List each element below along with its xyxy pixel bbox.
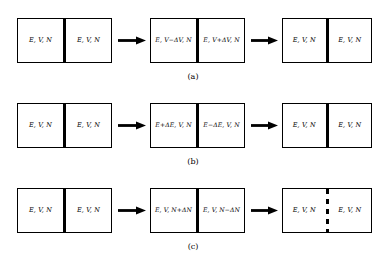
- row-b-box-middle-right-label: E−ΔE, V, N: [203, 122, 239, 128]
- row-b-box-initial-right-cell: E, V, N: [66, 104, 111, 147]
- row-c-box-middle-right-cell: E, V, N−ΔN: [199, 189, 244, 232]
- thermodynamic-exchange-figure: E, V, N E, V, N E, V−ΔV, N E, V+ΔV, N: [0, 0, 386, 262]
- row-a-box-middle-right-cell: E, V+ΔV, N: [199, 19, 244, 62]
- row-c-box-final: E, V, N E, V, N: [282, 188, 372, 233]
- row-c-box-final-right-cell: E, V, N: [329, 189, 372, 232]
- row-a-box-initial-right-cell: E, V, N: [66, 19, 111, 62]
- caption-c: (c): [0, 242, 386, 251]
- row-b-box-final: E, V, N E, V, N: [282, 103, 372, 148]
- row-a-box-middle: E, V−ΔV, N E, V+ΔV, N: [150, 18, 245, 63]
- row-c-box-middle: E, V, N+ΔN E, V, N−ΔN: [150, 188, 245, 233]
- row-c-box-final-left-cell: E, V, N: [283, 189, 326, 232]
- row-b-box-final-right-label: E, V, N: [338, 122, 361, 128]
- row-a-box-final-left-cell: E, V, N: [283, 19, 326, 62]
- row-b-box-final-left-label: E, V, N: [293, 122, 316, 128]
- row-c-box-initial: E, V, N E, V, N: [17, 188, 112, 233]
- row-b-box-final-left-cell: E, V, N: [283, 104, 326, 147]
- row-c-box-initial-right-label: E, V, N: [77, 207, 100, 213]
- row-b-box-initial: E, V, N E, V, N: [17, 103, 112, 148]
- row-b-box-middle-left-label: E+ΔE, V, N: [155, 122, 191, 128]
- row-a-box-initial: E, V, N E, V, N: [17, 18, 112, 63]
- row-b-box-middle-left-cell: E+ΔE, V, N: [151, 104, 196, 147]
- row-c-box-initial-left-cell: E, V, N: [18, 189, 63, 232]
- row-a-box-middle-left-label: E, V−ΔV, N: [155, 37, 191, 43]
- row-b-box-initial-left-cell: E, V, N: [18, 104, 63, 147]
- row-c-box-middle-right-label: E, V, N−ΔN: [203, 207, 240, 213]
- row-c-arrow-first: [118, 206, 146, 215]
- row-a-box-final-left-label: E, V, N: [293, 37, 316, 43]
- row-a-box-middle-right-label: E, V+ΔV, N: [203, 37, 239, 43]
- row-b-box-final-right-cell: E, V, N: [329, 104, 372, 147]
- row-a-box-initial-right-label: E, V, N: [77, 37, 100, 43]
- caption-a: (a): [0, 72, 386, 81]
- row-b-box-initial-left-label: E, V, N: [29, 122, 52, 128]
- row-a-arrow-first: [118, 36, 146, 45]
- row-a-arrow-second: [251, 36, 278, 45]
- row-b-arrow-first: [118, 121, 146, 130]
- row-c-box-middle-left-label: E, V, N+ΔN: [155, 207, 192, 213]
- row-b-box-middle: E+ΔE, V, N E−ΔE, V, N: [150, 103, 245, 148]
- row-c-box-initial-right-cell: E, V, N: [66, 189, 111, 232]
- row-a-box-initial-left-label: E, V, N: [29, 37, 52, 43]
- row-c-box-final-right-label: E, V, N: [338, 207, 361, 213]
- row-a-box-final-right-label: E, V, N: [338, 37, 361, 43]
- row-c-arrow-second: [251, 206, 278, 215]
- row-a-box-final: E, V, N E, V, N: [282, 18, 372, 63]
- row-b-box-middle-right-cell: E−ΔE, V, N: [199, 104, 244, 147]
- row-a-box-final-right-cell: E, V, N: [329, 19, 372, 62]
- row-b-arrow-second: [251, 121, 278, 130]
- row-c-box-initial-left-label: E, V, N: [29, 207, 52, 213]
- caption-b: (b): [0, 157, 386, 166]
- row-a-box-initial-left-cell: E, V, N: [18, 19, 63, 62]
- row-c-box-final-left-label: E, V, N: [293, 207, 316, 213]
- row-b-box-initial-right-label: E, V, N: [77, 122, 100, 128]
- row-a-box-middle-left-cell: E, V−ΔV, N: [151, 19, 196, 62]
- row-c-box-middle-left-cell: E, V, N+ΔN: [151, 189, 196, 232]
